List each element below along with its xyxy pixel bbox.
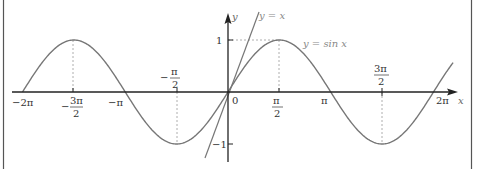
label-neg-pi-half-num: π	[171, 66, 178, 77]
label-neg-pi: −π	[108, 97, 123, 108]
label-pi-half-den: 2	[274, 108, 280, 119]
label-y-minus-one: −1	[212, 139, 227, 150]
sine-curve-label: y = sin x	[302, 38, 347, 49]
y-axis-label: y	[231, 11, 238, 22]
label-three-pi-half-num: 3π	[374, 63, 387, 74]
label-neg-two-pi: −2π	[12, 97, 34, 108]
label-two-pi: 2π	[436, 95, 449, 106]
label-neg-three-pi-half-num: 3π	[70, 95, 83, 106]
label-pi-half-num: π	[273, 95, 280, 106]
label-y-one: 1	[216, 35, 222, 46]
label-origin: 0	[232, 95, 238, 106]
label-neg-three-pi-half-sign: −	[61, 101, 69, 112]
label-neg-three-pi-half-den: 2	[73, 108, 79, 119]
x-axis-label: x	[458, 95, 464, 106]
sine-vs-line-diagram: −2π − 3π 2 −π − π 2 0 π 2 π 3π 2 2π x y …	[0, 0, 477, 169]
label-neg-pi-half-sign: −	[160, 72, 168, 83]
identity-line-label: y = x	[258, 10, 285, 21]
identity-line	[205, 12, 259, 158]
label-pi: π	[321, 95, 328, 106]
label-three-pi-half-den: 2	[378, 76, 384, 87]
label-neg-pi-half-den: 2	[172, 79, 178, 90]
